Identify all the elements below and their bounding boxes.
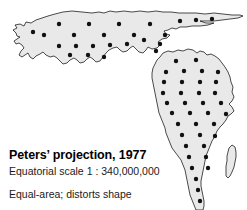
indicator-dot-africa-7 xyxy=(180,80,184,84)
indicator-dot-africa-11 xyxy=(179,91,183,95)
indicator-dot-africa-8 xyxy=(198,80,202,84)
indicator-dot-africa-3 xyxy=(182,69,186,73)
indicator-dot-africa-6 xyxy=(162,80,166,84)
indicator-dot-eurasia-4 xyxy=(102,33,106,37)
indicator-dot-eurasia-0 xyxy=(42,33,46,37)
indicator-dot-eurasia-19 xyxy=(68,53,72,57)
map-title: Peters’ projection, 1977 xyxy=(9,148,199,163)
indicator-dot-africa-4 xyxy=(200,69,204,73)
indicator-dot-eurasia-3 xyxy=(87,22,91,26)
indicator-dot-africa-12 xyxy=(197,91,201,95)
peters-projection-figure: Peters’ projection, 1977 Equatorial scal… xyxy=(0,0,247,210)
indicator-dot-eurasia-22 xyxy=(154,49,158,53)
indicator-dot-africa-27 xyxy=(213,134,217,138)
indicator-dot-africa-29 xyxy=(202,144,206,148)
indicator-dot-africa-25 xyxy=(180,133,184,137)
indicator-dot-eurasia-14 xyxy=(91,44,95,48)
indicator-dot-africa-2 xyxy=(164,70,168,74)
indicator-dot-africa-15 xyxy=(183,101,187,105)
indicator-dot-eurasia-1 xyxy=(57,22,61,26)
indicator-dot-africa-20 xyxy=(206,111,210,115)
indicator-dot-africa-23 xyxy=(194,122,198,126)
indicator-dot-eurasia-12 xyxy=(57,44,61,48)
indicator-dot-eurasia-5 xyxy=(117,22,121,26)
indicator-dot-africa-16 xyxy=(201,101,205,105)
indicator-dot-eurasia-2 xyxy=(72,33,76,37)
indicator-dot-africa-33 xyxy=(206,166,210,170)
landmass-madagascar xyxy=(226,145,236,178)
map-scale-text: Equatorial scale 1 : 340,000,000 xyxy=(9,164,199,178)
indicator-dot-africa-1 xyxy=(194,58,198,62)
indicator-dot-africa-0 xyxy=(174,59,178,63)
indicator-dot-africa-21 xyxy=(224,112,228,116)
indicator-dot-eurasia-9 xyxy=(178,19,182,23)
indicator-dot-eurasia-21 xyxy=(102,55,106,59)
indicator-dot-africa-19 xyxy=(188,111,192,115)
indicator-dot-africa-9 xyxy=(214,80,218,84)
map-property-note: Equal-area; distorts shape xyxy=(9,187,199,201)
indicator-dot-eurasia-8 xyxy=(163,33,167,37)
indicator-dot-eurasia-23 xyxy=(31,30,35,34)
indicator-dot-africa-13 xyxy=(213,91,217,95)
indicator-dot-africa-22 xyxy=(176,122,180,126)
indicator-dot-eurasia-13 xyxy=(74,44,78,48)
indicator-dot-eurasia-20 xyxy=(86,53,90,57)
indicator-dot-eurasia-6 xyxy=(132,33,136,37)
indicator-dot-africa-5 xyxy=(216,70,220,74)
indicator-dot-eurasia-7 xyxy=(148,22,152,26)
indicator-dot-africa-14 xyxy=(165,101,169,105)
indicator-dot-eurasia-10 xyxy=(194,18,198,22)
indicator-dot-eurasia-11 xyxy=(210,17,214,21)
indicator-dot-africa-26 xyxy=(198,133,202,137)
indicator-dot-eurasia-16 xyxy=(125,42,129,46)
indicator-dot-africa-31 xyxy=(204,155,208,159)
indicator-dot-eurasia-18 xyxy=(158,42,162,46)
indicator-dot-africa-17 xyxy=(219,101,223,105)
indicator-dot-africa-24 xyxy=(212,122,216,126)
indicator-dot-eurasia-17 xyxy=(142,38,146,42)
caption-block: Peters’ projection, 1977 Equatorial scal… xyxy=(9,148,199,201)
indicator-dot-africa-18 xyxy=(170,111,174,115)
indicator-dot-eurasia-15 xyxy=(108,43,112,47)
indicator-dot-africa-10 xyxy=(161,91,165,95)
